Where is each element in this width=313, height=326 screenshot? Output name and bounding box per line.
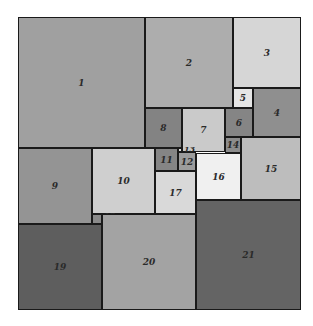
square-12: 12 (178, 152, 196, 171)
square-label: 1 (78, 78, 84, 88)
square-17: 17 (155, 171, 196, 214)
square-label: 13 (184, 144, 195, 154)
square-label: 16 (212, 172, 225, 182)
square-2: 2 (145, 17, 233, 108)
square-label: 10 (117, 176, 130, 186)
square-label: 2 (186, 58, 192, 68)
square-label: 4 (274, 108, 280, 118)
square-6: 6 (225, 108, 253, 137)
square-3: 3 (233, 17, 301, 88)
square-9: 9 (18, 148, 92, 224)
square-label: 9 (52, 181, 58, 191)
square-15: 15 (241, 137, 301, 200)
square-label: 3 (264, 48, 270, 58)
square-19: 19 (18, 224, 102, 310)
square-label: 15 (265, 164, 278, 174)
square-label: 6 (236, 118, 242, 128)
square-18: 18 (92, 214, 102, 224)
square-10: 10 (92, 148, 155, 214)
square-label: 20 (143, 257, 156, 267)
square-label: 21 (242, 250, 255, 260)
square-11: 11 (155, 148, 178, 171)
square-label: 12 (181, 157, 194, 167)
square-1: 1 (18, 17, 145, 148)
square-label: 8 (160, 123, 166, 133)
square-label: 11 (160, 155, 173, 165)
square-4: 4 (253, 88, 301, 137)
square-13: 13 (178, 148, 182, 152)
square-label: 14 (227, 140, 240, 150)
square-label: 7 (200, 125, 206, 135)
square-21: 21 (196, 200, 301, 310)
square-20: 20 (102, 214, 196, 310)
square-label: 19 (54, 262, 67, 272)
square-label: 5 (240, 93, 246, 103)
square-8: 8 (145, 108, 182, 148)
square-5: 5 (233, 88, 253, 108)
square-16: 16 (196, 153, 241, 200)
square-label: 17 (169, 188, 182, 198)
square-14: 14 (225, 137, 241, 153)
